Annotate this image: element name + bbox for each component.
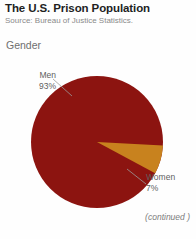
leader-line-women xyxy=(126,168,148,186)
callout-men-value: 93% xyxy=(14,81,56,92)
continued-note: (continued ) xyxy=(145,212,190,223)
callout-women-value: 7% xyxy=(146,183,194,194)
callout-women: Women 7% xyxy=(146,172,194,193)
pie-chart-svg xyxy=(30,75,164,209)
callout-men: Men 93% xyxy=(14,70,56,91)
section-label-gender: Gender xyxy=(6,39,41,51)
page-title: The U.S. Prison Population xyxy=(5,2,191,15)
figure-panel: The U.S. Prison Population Source: Burea… xyxy=(0,0,196,239)
callout-men-label: Men xyxy=(14,70,56,81)
pie-chart xyxy=(30,75,164,209)
callout-women-label: Women xyxy=(146,172,194,183)
source-attribution: Source: Bureau of Justice Statistics. xyxy=(5,16,191,26)
